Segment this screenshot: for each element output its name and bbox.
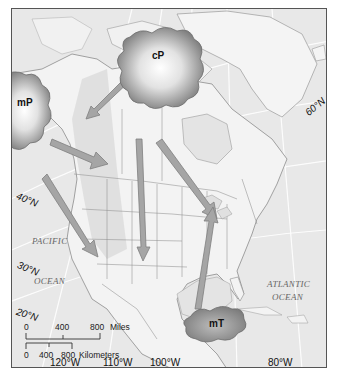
mt-label: mT [209,318,224,329]
cp-label: cP [152,50,164,61]
north-america-map [12,9,327,368]
atlantic-label-line2: OCEAN [272,292,303,302]
pacific-label-line2: OCEAN [34,276,65,286]
map-frame: cP mP mT 60°N 40°N 30°N 20°N PACIFIC OCE… [11,8,327,368]
scale-miles-unit: Miles [110,322,130,332]
lon-100w-label: 100°W [150,357,180,368]
pacific-label-line1: PACIFIC [32,236,67,246]
scale-miles-0: 0 [24,322,29,332]
scale-miles-800: 800 [90,322,104,332]
cp-air-mass [117,27,203,108]
atlantic-label-line1: ATLANTIC [267,279,310,289]
lon-120w-label: 120°W [50,357,80,368]
mp-label: mP [17,97,33,108]
lon-110w-label: 110°W [103,357,132,368]
scale-km-0: 0 [24,350,29,360]
scale-miles-400: 400 [55,322,69,332]
lon-80w-label: 80°W [268,357,293,368]
